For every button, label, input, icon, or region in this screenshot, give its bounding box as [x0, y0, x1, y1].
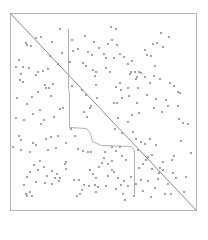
data-point	[22, 66, 24, 68]
data-point	[82, 150, 84, 152]
data-point	[130, 176, 132, 178]
data-point	[64, 163, 66, 165]
data-point	[129, 73, 131, 75]
data-point	[50, 95, 52, 97]
data-point	[95, 84, 97, 86]
data-point	[37, 91, 39, 93]
data-point	[124, 199, 126, 201]
data-point	[76, 195, 78, 197]
data-point	[144, 49, 146, 51]
data-point	[135, 183, 137, 185]
data-point	[180, 140, 182, 142]
data-point	[55, 147, 57, 149]
data-point	[22, 81, 24, 83]
data-point	[109, 71, 111, 73]
data-point	[16, 97, 18, 99]
data-point	[84, 35, 86, 37]
data-point	[111, 160, 113, 162]
data-point	[107, 175, 109, 177]
data-point	[170, 193, 172, 195]
data-point	[152, 43, 154, 45]
data-point	[107, 43, 109, 45]
step-path-line	[69, 29, 135, 195]
data-point	[59, 108, 61, 110]
data-point	[105, 67, 107, 69]
data-point	[178, 118, 180, 120]
data-point	[173, 85, 175, 87]
data-point	[94, 184, 96, 186]
data-point	[20, 73, 22, 75]
data-point	[45, 87, 47, 89]
data-point	[45, 138, 47, 140]
data-point	[26, 176, 28, 178]
data-point	[138, 112, 140, 114]
data-point	[120, 184, 122, 186]
data-point	[35, 74, 37, 76]
data-point	[155, 98, 157, 100]
data-point	[149, 138, 151, 140]
data-point	[86, 116, 88, 118]
data-point	[98, 47, 100, 49]
data-point	[47, 149, 49, 151]
data-point	[56, 173, 58, 175]
data-point	[59, 177, 61, 179]
data-point	[59, 28, 61, 30]
data-point	[123, 180, 125, 182]
data-point	[127, 121, 129, 123]
data-point	[92, 69, 94, 71]
data-point	[132, 131, 134, 133]
data-point	[125, 159, 127, 161]
data-point	[119, 82, 121, 84]
data-point	[53, 116, 55, 118]
data-point	[187, 123, 189, 125]
data-point	[164, 193, 166, 195]
data-point	[146, 94, 148, 96]
data-point	[142, 190, 144, 192]
data-point	[54, 177, 56, 179]
data-point	[94, 75, 96, 77]
data-point	[95, 191, 97, 193]
data-point	[150, 55, 152, 57]
data-point	[127, 185, 129, 187]
data-point	[32, 142, 34, 144]
data-point	[39, 160, 41, 162]
data-point	[33, 164, 35, 166]
data-point	[158, 172, 160, 174]
data-point	[113, 171, 115, 173]
data-point	[42, 70, 44, 72]
data-point	[128, 95, 130, 97]
data-point	[105, 185, 107, 187]
data-point	[138, 71, 140, 73]
data-point	[135, 138, 137, 140]
data-point	[51, 183, 53, 185]
data-point	[120, 89, 122, 91]
data-point	[35, 37, 37, 39]
data-point	[88, 185, 90, 187]
data-point	[127, 63, 129, 65]
data-point	[83, 111, 85, 113]
data-point	[73, 179, 75, 181]
data-point	[40, 36, 42, 38]
data-point	[115, 150, 117, 152]
data-point	[93, 41, 95, 43]
data-point	[131, 114, 133, 116]
data-point	[26, 195, 28, 197]
data-point	[151, 154, 153, 156]
data-point	[105, 57, 107, 59]
data-point	[154, 187, 156, 189]
data-point	[161, 111, 163, 113]
data-point	[134, 71, 136, 73]
data-point	[147, 180, 149, 182]
data-point	[35, 144, 37, 146]
data-point	[85, 94, 87, 96]
data-point	[61, 52, 63, 54]
data-point	[65, 161, 67, 163]
data-point	[87, 51, 89, 53]
data-point	[85, 65, 87, 67]
data-point	[115, 28, 117, 30]
data-point	[185, 176, 187, 178]
data-point	[58, 180, 60, 182]
data-point	[15, 117, 17, 119]
data-point	[182, 122, 184, 124]
data-point	[111, 39, 113, 41]
